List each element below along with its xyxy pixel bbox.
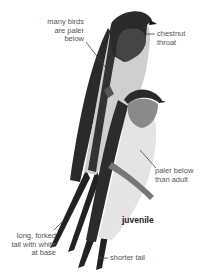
annotation-juvenile-paler: paler below than adult xyxy=(155,167,193,184)
annotation-shorter-tail: shorter tail xyxy=(110,254,145,263)
annotation-paler-below: many birds are paler below xyxy=(40,18,84,44)
annotation-chestnut-throat: chestnut throat xyxy=(157,30,185,47)
juvenile-label: juvenile xyxy=(122,216,154,225)
annotation-forked-tail: long, forked tail with white at base xyxy=(4,232,56,258)
